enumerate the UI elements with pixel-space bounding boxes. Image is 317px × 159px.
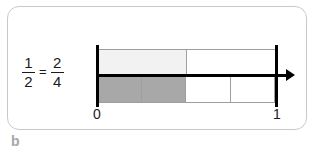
bar-cell-fourth-unshaded (230, 76, 276, 103)
figure-root: 1 2 = 2 4 (0, 0, 317, 159)
fraction-two-fourths: 2 4 (51, 55, 64, 90)
fraction-numerator: 1 (22, 55, 34, 72)
fraction-denominator: 2 (22, 73, 34, 90)
fraction-one-half: 1 2 (22, 55, 35, 90)
fraction-numerator: 2 (51, 55, 63, 72)
bar-cell-half-shaded (96, 49, 187, 76)
equals-sign: = (38, 65, 48, 78)
tick-label-zero: 0 (93, 107, 101, 121)
bar-cell-half-unshaded (186, 49, 277, 76)
figure-caption-label: b (11, 134, 20, 148)
arrow-right-icon (286, 69, 295, 81)
figure-card: 1 2 = 2 4 (7, 6, 307, 130)
number-line-diagram: 0 1 (96, 49, 296, 121)
tick-mark-zero (96, 45, 99, 107)
bar-row-fourths (96, 76, 278, 103)
fraction-equation: 1 2 = 2 4 (22, 55, 64, 90)
bar-cell-fourth-shaded (96, 76, 142, 103)
fraction-denominator: 4 (51, 73, 63, 90)
bar-cell-fourth-unshaded (185, 76, 231, 103)
bar-row-halves (96, 49, 278, 76)
tick-mark-one (275, 45, 278, 107)
number-line-axis (96, 74, 288, 77)
bar-cell-fourth-shaded (141, 76, 187, 103)
tick-label-one: 1 (273, 107, 281, 121)
